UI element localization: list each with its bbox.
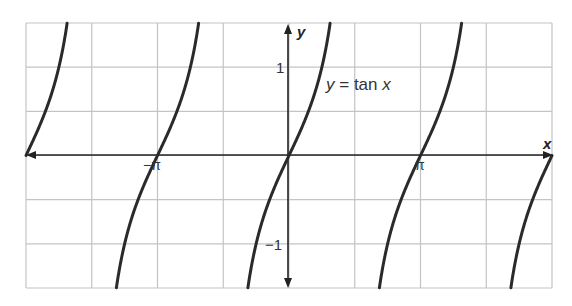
tan-branch [26, 23, 67, 155]
y-tick-label-1: 1 [276, 60, 284, 75]
function-label: y = tan x [326, 76, 391, 93]
tan-chart [0, 0, 572, 306]
y-axis-label: y [297, 24, 305, 39]
function-label-lhs: y [326, 75, 335, 94]
x-tick-label-neg-pi: −π [143, 158, 161, 172]
y-axis-up-arrow-icon [284, 24, 292, 34]
function-label-eq: = [335, 75, 354, 94]
y-tick-label-neg1: −1 [265, 237, 282, 252]
x-tick-label-pi: π [415, 158, 425, 172]
function-label-var: x [382, 75, 391, 94]
y-axis-down-arrow-icon [284, 278, 292, 288]
x-axis-label: x [543, 136, 551, 151]
function-label-fn: tan [354, 75, 382, 94]
tan-branch [511, 156, 552, 288]
